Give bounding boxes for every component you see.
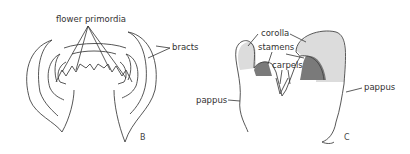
stamens-label: stamens xyxy=(258,42,295,52)
pappus-right-pointer xyxy=(346,88,362,92)
bract-outer-right xyxy=(125,32,156,142)
flower-primordia-surface xyxy=(56,64,132,82)
panel-c: corolla stamens carpels pappus pappus C xyxy=(196,28,396,144)
pappus-left-pointer xyxy=(228,100,240,101)
panel-b: flower primordia bracts B xyxy=(27,14,199,142)
flower-primordia-label: flower primordia xyxy=(56,14,126,24)
bracts-label: bracts xyxy=(172,42,199,52)
corolla-label: corolla xyxy=(261,28,289,38)
pappus-right-label: pappus xyxy=(364,82,396,92)
carpels-pointers xyxy=(280,70,290,84)
bract-outer-left xyxy=(27,40,62,132)
panel-b-label: B xyxy=(140,133,146,142)
stamen-left xyxy=(254,61,272,76)
panel-c-label: C xyxy=(344,133,350,142)
carpels-label: carpels xyxy=(272,60,303,70)
diagram-svg: flower primordia bracts B corolla stamen… xyxy=(0,0,410,154)
botanical-diagram: flower primordia bracts B corolla stamen… xyxy=(0,0,410,154)
pappus-left-label: pappus xyxy=(196,95,228,105)
